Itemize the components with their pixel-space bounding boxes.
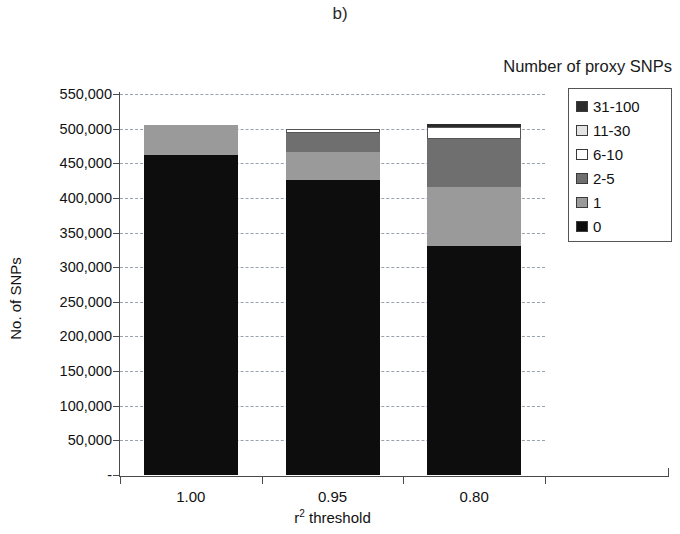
- y-axis-tick-label: 550,000: [4, 86, 112, 102]
- legend-item: 11-30: [576, 118, 671, 142]
- bar-0-95: [286, 94, 380, 475]
- x-axis-tick-label: 0.80: [404, 488, 544, 505]
- legend-label: 6-10: [593, 147, 623, 162]
- legend-swatch-0: [576, 221, 588, 232]
- bar-segment-0: [144, 155, 238, 475]
- legend-item: 1: [576, 190, 671, 214]
- legend-swatch-6-10: [576, 149, 588, 160]
- y-axis-tick: [113, 233, 120, 234]
- y-axis-tick: [113, 406, 120, 407]
- bar-segment-6-10: [286, 129, 380, 133]
- bar-segment-2-5: [427, 139, 521, 187]
- x-axis-end-cap: [668, 468, 669, 477]
- y-axis-tick-label: 500,000: [4, 121, 112, 137]
- legend-label: 0: [593, 219, 601, 234]
- x-axis-tick: [403, 476, 404, 484]
- legend-swatch-31-100: [576, 101, 588, 112]
- plot-area: [120, 94, 545, 475]
- bar-segment-6-10: [427, 127, 521, 139]
- legend-swatch-1: [576, 197, 588, 208]
- y-axis-tick: [113, 371, 120, 372]
- y-axis-tick: [113, 129, 120, 130]
- x-axis-tick: [262, 476, 263, 484]
- legend-label: 11-30: [593, 123, 630, 138]
- figure-panel-b: b) Number of proxy SNPs 31-10011-306-102…: [0, 0, 680, 534]
- bar-segment-1: [427, 187, 521, 246]
- x-axis-tick: [545, 476, 546, 484]
- x-axis-tick-label: 0.95: [263, 488, 403, 505]
- bar-segment-0: [427, 246, 521, 475]
- bar-segment-1: [144, 125, 238, 155]
- x-axis-tick-label: 1.00: [121, 488, 261, 505]
- legend-swatch-2-5: [576, 173, 588, 184]
- legend-label: 31-100: [593, 99, 640, 114]
- x-axis-line: [119, 476, 669, 477]
- legend-label: 2-5: [593, 171, 615, 186]
- y-axis-tick-label: 400,000: [4, 190, 112, 206]
- y-axis-tick-label: 450,000: [4, 155, 112, 171]
- y-axis-tick-label: 100,000: [4, 398, 112, 414]
- bar-segment-0: [286, 180, 380, 475]
- y-axis-tick: [113, 475, 120, 476]
- bar-0-80: [427, 94, 521, 475]
- y-axis-tick-label: 50,000: [4, 432, 112, 448]
- x-axis-title: r2 threshold: [120, 508, 545, 526]
- bar-1-00: [144, 94, 238, 475]
- legend-item: 31-100: [576, 94, 671, 118]
- legend-item: 6-10: [576, 142, 671, 166]
- y-axis-tick: [113, 336, 120, 337]
- y-axis-tick-label: 150,000: [4, 363, 112, 379]
- legend-item: 2-5: [576, 166, 671, 190]
- bar-segment-31-100: [427, 124, 521, 127]
- bar-segment-2-5: [286, 133, 380, 152]
- y-axis-tick: [113, 440, 120, 441]
- y-axis-tick: [113, 198, 120, 199]
- legend: 31-10011-306-102-510: [568, 88, 672, 242]
- bar-segment-1: [286, 152, 380, 180]
- y-axis-title: No. of SNPs: [7, 234, 24, 364]
- y-axis-tick: [113, 302, 120, 303]
- y-axis-tick: [113, 163, 120, 164]
- x-axis-title-rest: threshold: [305, 509, 371, 526]
- legend-label: 1: [593, 195, 601, 210]
- y-axis-tick: [113, 94, 120, 95]
- x-axis-tick: [120, 476, 121, 484]
- y-axis-tick-label: -: [4, 467, 112, 483]
- legend-item: 0: [576, 214, 671, 238]
- legend-title: Number of proxy SNPs: [503, 57, 672, 76]
- legend-swatch-11-30: [576, 125, 588, 136]
- y-axis-tick: [113, 267, 120, 268]
